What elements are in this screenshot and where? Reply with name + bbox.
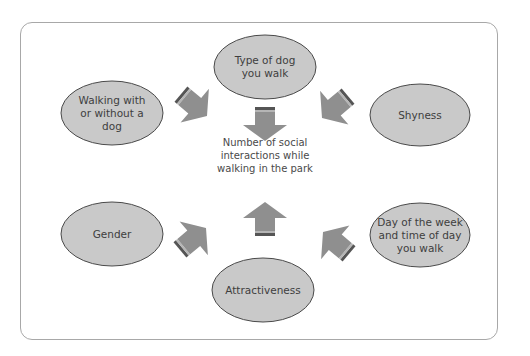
label-shyness: Shyness bbox=[370, 84, 470, 146]
label-gender: Gender bbox=[61, 202, 163, 266]
arrow-from-day-time bbox=[309, 215, 363, 271]
label-day-time: Day of the week and time of day you walk bbox=[370, 203, 470, 267]
arrow-from-walking-dog bbox=[167, 77, 221, 133]
arrow-from-shyness bbox=[308, 79, 362, 135]
label-type-of-dog: Type of dog you walk bbox=[214, 35, 316, 99]
label-attractiveness: Attractiveness bbox=[212, 258, 314, 322]
label-walking-dog: Walking with or without a dog bbox=[61, 81, 163, 145]
arrow-from-attractiveness bbox=[243, 202, 287, 236]
outcome-label: Number of social interactions while walk… bbox=[195, 136, 335, 175]
